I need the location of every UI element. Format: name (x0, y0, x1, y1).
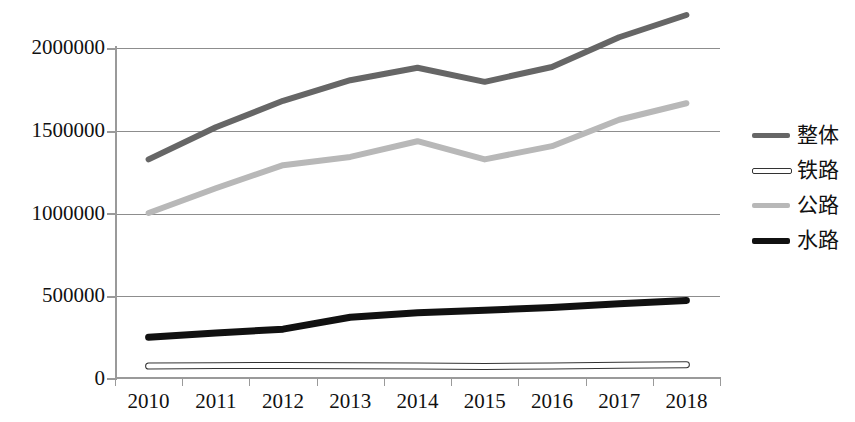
x-axis-line (115, 377, 721, 379)
x-axis-tick (720, 379, 721, 386)
x-axis-tick-label: 2016 (531, 391, 573, 412)
x-axis-tick-label: 2011 (195, 391, 236, 412)
legend-item[interactable]: 水路 (752, 223, 852, 258)
x-axis-tick (586, 379, 587, 386)
legend-item-label: 整体 (797, 125, 839, 146)
legend-item[interactable]: 公路 (752, 188, 852, 223)
series-line-1 (149, 365, 687, 367)
legend-item[interactable]: 铁路 (752, 153, 852, 188)
x-axis-tick (115, 379, 116, 386)
plot-area (115, 48, 720, 378)
x-axis-tick (518, 379, 519, 386)
x-axis-tick (451, 379, 452, 386)
series-line-3 (149, 300, 687, 337)
x-axis-tick (182, 379, 183, 386)
series-lines (115, 48, 720, 378)
y-axis-tick-label: 2000000 (7, 37, 105, 58)
x-axis-tick-label: 2017 (598, 391, 640, 412)
legend-item-label: 水路 (797, 230, 839, 251)
x-axis-tick-label: 2014 (397, 391, 439, 412)
y-axis-tick (107, 378, 115, 380)
x-axis-tick (384, 379, 385, 386)
legend-item-label: 公路 (797, 195, 839, 216)
legend-item[interactable]: 整体 (752, 118, 852, 153)
line-chart: 2000000 1500000 1000000 500000 0 2010201… (0, 0, 855, 422)
x-axis-tick-label: 2018 (665, 391, 707, 412)
y-axis-labels: 2000000 1500000 1000000 500000 0 (0, 0, 105, 422)
x-axis-tick-label: 2013 (329, 391, 371, 412)
x-axis-tick (249, 379, 250, 386)
y-axis-tick (107, 296, 115, 298)
y-axis-tick-label: 1000000 (7, 203, 105, 224)
x-axis-labels: 201020112012201320142015201620172018 (115, 391, 720, 421)
y-axis-tick-label: 1500000 (7, 120, 105, 141)
x-axis-tick-label: 2010 (128, 391, 170, 412)
y-axis-tick (107, 213, 115, 215)
y-axis-tick-label: 500000 (7, 285, 105, 306)
x-axis-tick (317, 379, 318, 386)
x-axis-tick-label: 2015 (464, 391, 506, 412)
y-axis-tick (107, 131, 115, 133)
x-axis-tick (653, 379, 654, 386)
x-axis-tick-label: 2012 (262, 391, 304, 412)
legend-item-label: 铁路 (797, 160, 839, 181)
y-axis-line (115, 46, 117, 380)
series-line-0 (149, 15, 687, 159)
y-axis-tick (107, 48, 115, 50)
y-axis-tick-label: 0 (7, 368, 105, 389)
chart-legend: 整体铁路公路水路 (752, 118, 852, 258)
